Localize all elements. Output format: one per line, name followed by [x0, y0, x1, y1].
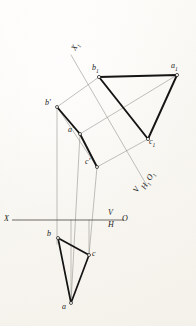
- label-ground-o: O: [122, 215, 128, 223]
- label-c1-sub: 1: [153, 142, 156, 148]
- auxiliary-triangle: [99, 75, 177, 139]
- projection-drawing: [0, 0, 196, 326]
- label-b-top: b: [47, 230, 51, 238]
- projector-a: [71, 134, 80, 303]
- label-b1: b1: [92, 64, 99, 74]
- drawing-sheet: X V H O X1 V H1 O1 b' a' c' b c a b1 a1 …: [0, 0, 196, 326]
- label-c-top: c: [92, 250, 96, 258]
- label-a1: a1: [171, 62, 178, 72]
- label-b-prime-mark: ': [49, 98, 51, 107]
- marker-b-prime: [56, 106, 59, 109]
- aux-transfer-c-b: [57, 107, 97, 167]
- marker-c-prime: [96, 166, 99, 169]
- label-a-prime: a': [68, 126, 74, 134]
- marker-c-top: [88, 254, 91, 257]
- label-ground-x: X: [4, 215, 9, 223]
- label-a-prime-mark: ': [72, 125, 74, 134]
- marker-b-top: [57, 237, 60, 240]
- point-markers: [56, 73, 179, 304]
- projector-c: [89, 167, 97, 255]
- marker-a1: [175, 73, 178, 76]
- label-b1-sub: 1: [96, 68, 99, 74]
- label-plane-v: V: [108, 209, 113, 217]
- label-c1: c1: [149, 138, 155, 148]
- label-c-prime: c': [85, 158, 90, 166]
- construction-lines: [57, 55, 177, 303]
- label-a1-sub: 1: [175, 66, 178, 72]
- object-lines: [57, 75, 177, 303]
- marker-b1: [97, 75, 100, 78]
- aux-reference-axis: [71, 55, 146, 184]
- aux-projector-a: [80, 75, 177, 134]
- label-a-top: a: [62, 303, 66, 311]
- horizontal-triangle: [58, 238, 89, 303]
- marker-a-top: [70, 302, 73, 305]
- label-plane-h: H: [108, 221, 114, 229]
- marker-a-prime: [79, 133, 82, 136]
- label-c-prime-mark: ': [89, 157, 91, 166]
- label-b-prime: b': [45, 99, 51, 107]
